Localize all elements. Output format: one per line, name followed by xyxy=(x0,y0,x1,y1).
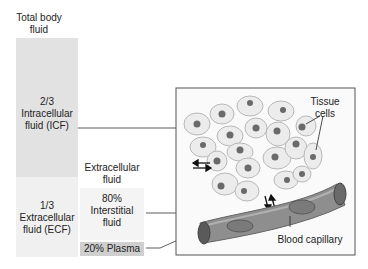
tissue-cells-label-1: Tissue xyxy=(303,96,347,108)
blood-capillary-label: Blood capillary xyxy=(270,234,350,246)
tissue-cells-label: Tissue cells xyxy=(303,96,347,120)
illustration xyxy=(0,0,368,269)
tissue-cells-label-2: cells xyxy=(303,108,347,120)
